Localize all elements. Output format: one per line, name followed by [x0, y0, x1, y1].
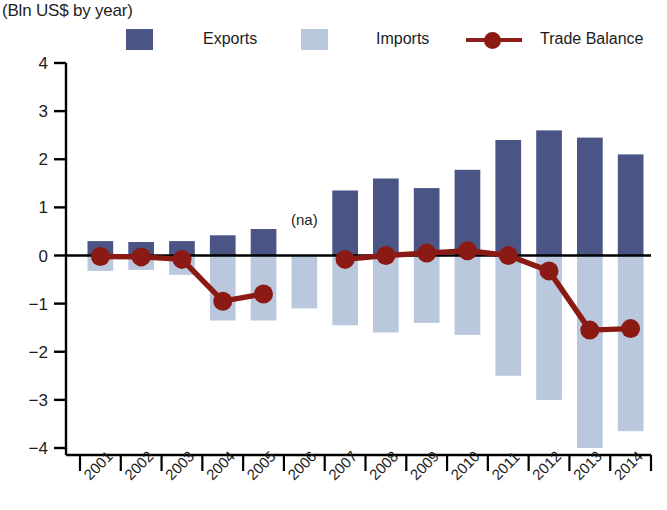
bar-exports-2008 [373, 179, 399, 256]
bar-imports-2014 [618, 256, 644, 432]
x-tick-labels: 2001200220032004200520062007200820092010… [80, 448, 646, 484]
bar-exports-2014 [618, 154, 644, 255]
trade-balance-point-2002 [132, 247, 151, 266]
bar-exports-2011 [495, 140, 521, 256]
trade-balance-point-2012 [540, 261, 559, 280]
y-tick-label: −3 [29, 391, 48, 410]
y-tick-label: 4 [39, 54, 48, 73]
y-tick-label: 2 [39, 150, 48, 169]
trade-balance-point-2003 [173, 250, 192, 269]
bar-imports-2008 [373, 256, 399, 333]
trade-balance-point-2005 [254, 285, 273, 304]
bar-exports-2013 [577, 138, 603, 256]
trade-balance-point-2007 [336, 250, 355, 269]
x-tick-label-2008: 2008 [366, 448, 402, 484]
y-tick-label: −2 [29, 343, 48, 362]
x-tick-label-2009: 2009 [406, 448, 442, 484]
trade-balance-point-2013 [580, 321, 599, 340]
bar-exports-2012 [536, 130, 562, 255]
x-tick-label-2002: 2002 [121, 448, 157, 484]
x-tick-label-2007: 2007 [325, 448, 361, 484]
x-tick-label-2003: 2003 [162, 448, 198, 484]
trade-balance-point-2009 [417, 244, 436, 263]
y-tick-label: 1 [39, 198, 48, 217]
x-tick-label-2006: 2006 [284, 448, 320, 484]
y-axis [54, 63, 66, 448]
bar-imports-2009 [414, 256, 440, 323]
x-tick-label-2005: 2005 [243, 448, 279, 484]
bar-imports-2004 [210, 256, 236, 321]
x-tick-label-2012: 2012 [529, 448, 565, 484]
x-tick-label-2004: 2004 [203, 448, 239, 484]
y-tick-label: −4 [29, 439, 48, 458]
trade-balance-point-2010 [458, 241, 477, 260]
chart-annotations: (na) [291, 211, 318, 228]
bar-imports-2010 [455, 256, 481, 335]
x-tick-label-2001: 2001 [80, 448, 116, 484]
bar-exports-2005 [251, 229, 277, 256]
x-tick-label-2013: 2013 [570, 448, 606, 484]
trade-balance-point-2004 [213, 292, 232, 311]
bar-imports-2006 [292, 256, 318, 309]
x-tick-label-2014: 2014 [610, 448, 646, 484]
trade-balance-point-2001 [91, 247, 110, 266]
y-tick-label: 0 [39, 247, 48, 266]
y-tick-label: 3 [39, 102, 48, 121]
bar-exports-2007 [332, 191, 358, 256]
x-tick-label-2011: 2011 [488, 448, 523, 483]
export-bars-group [88, 130, 644, 255]
y-tick-label: −1 [29, 295, 48, 314]
bar-imports-2011 [495, 256, 521, 376]
x-tick-label-2010: 2010 [447, 448, 483, 484]
bar-exports-2004 [210, 235, 236, 255]
chart-plot-area: 2001200220032004200520062007200820092010… [0, 0, 667, 510]
y-tick-labels: 43210−1−2−3−4 [29, 54, 48, 458]
bar-imports-2013 [577, 256, 603, 449]
trade-balance-point-2011 [499, 246, 518, 265]
na-2006: (na) [291, 211, 318, 228]
trade-balance-point-2008 [376, 246, 395, 265]
trade-balance-point-2014 [621, 319, 640, 338]
